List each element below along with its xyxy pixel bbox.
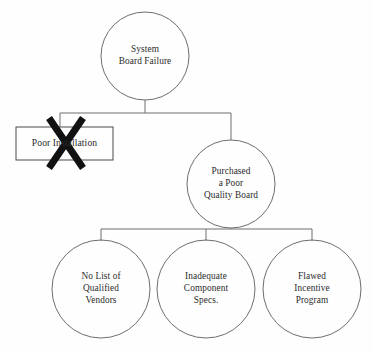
node-system-board-failure — [101, 12, 189, 100]
diagram-canvas — [0, 0, 372, 353]
node-no-list-of-qualified-vendors — [52, 240, 150, 338]
node-flawed-incentive-program — [263, 240, 361, 338]
node-inadequate-component-specs — [157, 240, 255, 338]
connector-group — [60, 100, 312, 241]
node-purchased-poor-quality-board — [187, 140, 275, 228]
fault-tree-diagram: System Board Failure Poor Installation P… — [0, 0, 372, 353]
